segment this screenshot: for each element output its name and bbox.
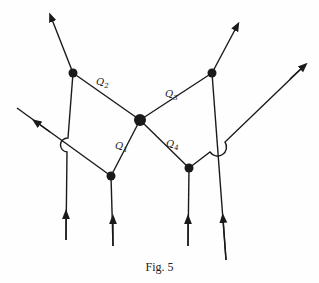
node-top-right — [208, 69, 217, 78]
edge-right-diagonal — [189, 66, 304, 168]
edge-left-vertical — [60, 73, 73, 240]
label-q2: Q2 — [96, 76, 109, 90]
node-lower-left — [107, 172, 116, 181]
figure-canvas: Q2 Q3 Q1 Q4 Fig. 5 — [0, 0, 319, 283]
label-q4: Q4 — [166, 138, 179, 152]
label-q1: Q1 — [115, 140, 128, 154]
edge-top-left-out — [51, 17, 73, 73]
figure-caption: Fig. 5 — [0, 260, 319, 275]
edge-q4 — [140, 120, 189, 168]
node-top-left — [69, 69, 78, 78]
network-diagram — [0, 0, 319, 283]
edge-left-diagonal — [17, 108, 111, 176]
node-lower-right — [185, 164, 194, 173]
edge-top-right-out — [212, 26, 237, 73]
node-center — [134, 114, 146, 126]
label-q3: Q3 — [165, 88, 178, 102]
